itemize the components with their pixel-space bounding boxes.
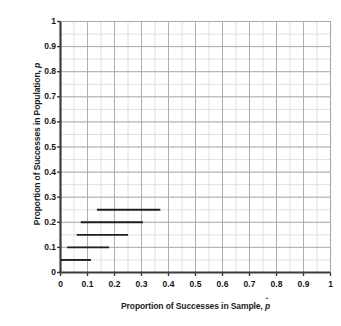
p-hat-caret: ̂ — [265, 297, 269, 305]
x-axis-label-text: Proportion of Successes in Sample, — [121, 301, 265, 311]
x-axis-label: Proportion of Successes in Sample, ̂p — [60, 301, 331, 311]
y-axis-label: Proportion of Successes in Population, p — [32, 10, 42, 278]
chart-figure: 00.10.20.30.40.50.60.70.80.91 00.10.20.3… — [0, 0, 341, 326]
y-axis-label-text: Proportion of Successes in Population, — [32, 68, 42, 225]
x-axis-ticks: 00.10.20.30.40.50.60.70.80.91 — [0, 0, 341, 326]
y-axis-label-symbol: p — [32, 63, 42, 68]
x-tick-label: 1 — [311, 280, 341, 289]
x-axis-label-symbol-phat: ̂p — [265, 301, 270, 311]
